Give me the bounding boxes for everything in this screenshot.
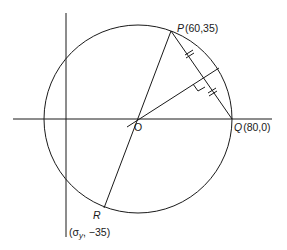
perpendicular-bisector	[127, 68, 219, 127]
chord-pq	[171, 31, 232, 119]
right-angle-marker	[193, 84, 205, 91]
label-p: P(60,35)	[177, 22, 218, 34]
mohr-circle-diagram: P(60,35) Q(80,0) O R (σy, −35)	[0, 0, 287, 250]
label-o: O	[134, 121, 142, 133]
label-r: R	[93, 209, 101, 221]
label-q: Q(80,0)	[234, 121, 271, 133]
label-r-coords: (σy, −35)	[69, 226, 110, 240]
tick-mark-upper	[185, 50, 194, 58]
